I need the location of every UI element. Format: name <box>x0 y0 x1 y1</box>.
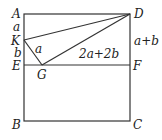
point-label-d: D <box>133 7 144 21</box>
point-label-c: C <box>133 118 142 132</box>
length-label-df: a+b <box>134 34 159 48</box>
point-label-g: G <box>37 68 47 82</box>
geometry-diagram: A D K E G F B C a b a 2a+2b a+b <box>0 0 162 140</box>
length-label-ke: b <box>14 46 22 60</box>
point-label-b: B <box>11 118 21 132</box>
point-label-a: A <box>11 7 21 21</box>
segment-kd <box>24 14 130 40</box>
length-label-ak: a <box>13 20 20 34</box>
length-label-gd: 2a+2b <box>78 47 119 61</box>
point-label-e: E <box>11 59 21 73</box>
length-label-kg: a <box>35 42 42 56</box>
point-label-f: F <box>132 59 142 73</box>
